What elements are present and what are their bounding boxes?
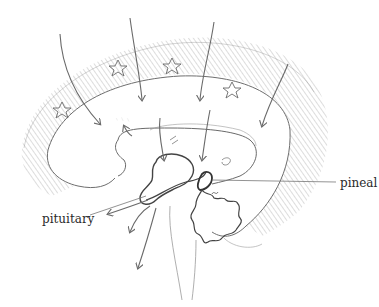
inner-structures — [112, 117, 262, 300]
label-pineal: pineal — [340, 177, 377, 189]
label-pituitary: pituitary — [42, 213, 94, 225]
star-icon — [223, 82, 241, 98]
brain-sketch — [0, 0, 379, 307]
pituitary-leader-line — [90, 196, 146, 215]
brain-diagram: pineal pituitary — [0, 0, 379, 307]
